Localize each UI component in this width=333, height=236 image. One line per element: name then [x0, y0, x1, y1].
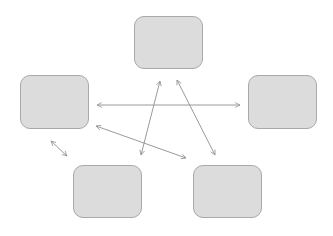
- diagram-canvas: [0, 0, 333, 236]
- edge-top-bottom-right: [177, 80, 215, 155]
- edge-left-bottom-left: [51, 141, 67, 156]
- node-top[interactable]: [134, 16, 203, 69]
- node-bottom-right[interactable]: [193, 165, 262, 218]
- edge-top-bottom-left: [141, 81, 160, 155]
- node-right[interactable]: [248, 75, 317, 129]
- node-bottom-left[interactable]: [73, 165, 142, 218]
- edge-left-bottom-right: [96, 126, 186, 158]
- node-left[interactable]: [20, 75, 89, 129]
